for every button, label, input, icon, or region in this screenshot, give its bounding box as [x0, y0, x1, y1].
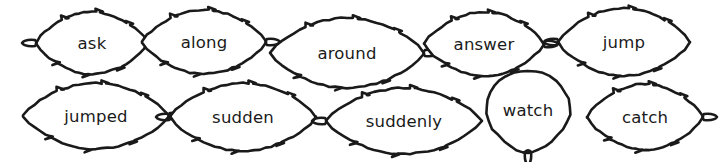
leaf-jumped-word: jumped	[63, 107, 127, 126]
leaf-group-layer: askalongaroundanswerjumpjumpedsuddensudd…	[22, 6, 717, 162]
leaf-answer-word: answer	[454, 35, 515, 54]
leaf-ask-word: ask	[78, 34, 107, 53]
leaf-ask[interactable]: ask	[22, 9, 148, 77]
leaf-sudden[interactable]: sudden	[156, 81, 316, 154]
leaf-along[interactable]: along	[142, 7, 280, 77]
leaf-jump[interactable]: jump	[544, 6, 690, 79]
leaf-catch-word: catch	[622, 108, 668, 127]
leaf-suddenly-word: suddenly	[366, 112, 443, 131]
leaf-sudden-word: sudden	[212, 108, 274, 127]
leaf-catch-stem-icon	[703, 114, 718, 120]
leaf-watch-word: watch	[503, 101, 554, 120]
leaf-along-word: along	[181, 33, 228, 52]
leaf-answer[interactable]: answer	[424, 10, 558, 79]
leaf-suddenly[interactable]: suddenly	[312, 85, 482, 157]
leaf-word-cards-canvas: askalongaroundanswerjumpjumpedsuddensudd…	[0, 0, 725, 162]
leaf-jumped[interactable]: jumped	[23, 80, 183, 152]
leaf-jump-word: jump	[602, 33, 645, 52]
leaf-ask-stem-icon	[22, 40, 37, 46]
leaf-watch[interactable]: watch	[486, 71, 570, 162]
leaf-around-word: around	[317, 44, 376, 63]
leaf-word-cards-svg: askalongaroundanswerjumpjumpedsuddensudd…	[0, 0, 725, 162]
leaf-around[interactable]: around	[270, 15, 438, 90]
leaf-catch[interactable]: catch	[587, 81, 717, 152]
